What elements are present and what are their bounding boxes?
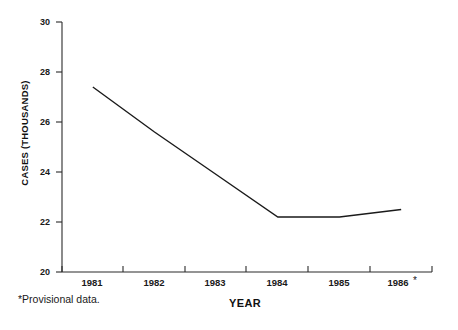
x-tick-label-1982: 1982: [143, 277, 164, 288]
x-tick-label-1986: 1986: [387, 277, 408, 288]
y-tick-label-30: 30: [40, 17, 50, 27]
footnote-provisional-data: *Provisional data.: [18, 293, 100, 305]
provisional-asterisk-marker: *: [413, 275, 417, 286]
chart-container: 30 28 26 24 22 20 1981 1982 1983 1984 19…: [0, 0, 458, 330]
y-axis-title: CASES (THOUSANDS): [19, 80, 30, 185]
x-tick-label-1985: 1985: [328, 277, 350, 288]
y-tick-label-26: 26: [40, 117, 50, 127]
x-axis-title: YEAR: [229, 297, 261, 309]
y-tick-label-24: 24: [40, 167, 50, 177]
y-tick-label-20: 20: [40, 267, 50, 277]
x-tick-label-1984: 1984: [266, 277, 288, 288]
y-tick-label-22: 22: [40, 217, 50, 227]
data-series-line: [93, 87, 401, 217]
x-tick-label-1981: 1981: [81, 277, 103, 288]
x-tick-label-1983: 1983: [204, 277, 225, 288]
line-chart: 30 28 26 24 22 20 1981 1982 1983 1984 19…: [0, 0, 458, 330]
y-tick-label-28: 28: [40, 67, 50, 77]
